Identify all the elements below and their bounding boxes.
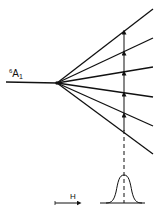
level-line-3 <box>57 67 153 83</box>
split-levels <box>57 9 153 154</box>
zeeman-diagram: H 6A1 <box>0 0 159 213</box>
ground-level-line <box>6 82 57 83</box>
level-line-6 <box>57 83 153 154</box>
field-label: H <box>70 192 76 201</box>
state-label: 6A1 <box>9 68 23 80</box>
level-line-1 <box>57 9 153 83</box>
fan-origin-dot <box>55 81 59 85</box>
state-label-subscript: 1 <box>19 73 23 80</box>
level-line-2 <box>57 38 153 83</box>
